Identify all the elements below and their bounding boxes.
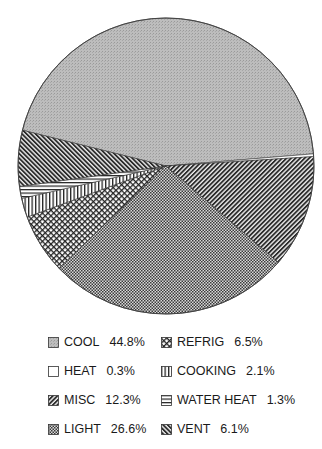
legend-label: COOL [64, 335, 99, 349]
legend-item-refrig: REFRIG6.5% [161, 335, 263, 349]
legend-value: 12.3% [105, 393, 140, 407]
legend-item-cooking: COOKING2.1% [161, 364, 275, 378]
legend-swatch-icon [161, 424, 172, 435]
legend-label: WATER HEAT [177, 393, 257, 407]
legend-swatch-icon [48, 424, 59, 435]
legend-label: LIGHT [64, 422, 101, 436]
legend-item-vent: VENT6.1% [161, 422, 249, 436]
legend-value: 26.6% [111, 422, 146, 436]
legend-label: MISC [64, 393, 95, 407]
legend-value: 6.1% [220, 422, 249, 436]
legend-label: VENT [177, 422, 210, 436]
legend-swatch-icon [48, 366, 59, 377]
legend-swatch-icon [161, 395, 172, 406]
legend-swatch-icon [48, 395, 59, 406]
legend-item-light: LIGHT26.6% [48, 422, 146, 436]
legend-label: HEAT [64, 364, 96, 378]
legend-label: COOKING [177, 364, 236, 378]
legend-value: 0.3% [106, 364, 135, 378]
legend-swatch-icon [48, 337, 59, 348]
legend-value: 1.3% [267, 393, 296, 407]
legend-item-cool: COOL44.8% [48, 335, 145, 349]
legend-item-heat: HEAT0.3% [48, 364, 135, 378]
legend-swatch-icon [161, 366, 172, 377]
legend-item-misc: MISC12.3% [48, 393, 141, 407]
legend-value: 6.5% [234, 335, 263, 349]
legend-swatch-icon [161, 337, 172, 348]
legend-item-water-heat: WATER HEAT1.3% [161, 393, 295, 407]
legend-value: 2.1% [246, 364, 275, 378]
legend-label: REFRIG [177, 335, 224, 349]
pie-chart [0, 0, 322, 330]
legend-value: 44.8% [109, 335, 144, 349]
